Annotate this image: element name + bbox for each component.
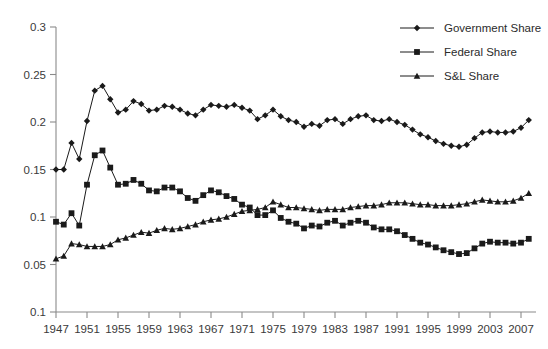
data-point-diamond-icon [301,124,307,130]
data-point-square-icon [115,182,121,188]
data-point-diamond-icon [402,122,408,128]
data-point-square-icon [402,232,408,238]
x-tick-label: 1955 [105,323,131,335]
data-point-diamond-icon [371,117,377,123]
x-tick-label: 1999 [446,323,472,335]
data-point-square-icon [123,181,129,187]
data-point-diamond-icon [92,87,98,93]
legend-label: Government Share [444,22,541,34]
data-point-square-icon [348,220,354,226]
data-point-diamond-icon [363,112,369,118]
legend-label: Federal Share [444,46,517,58]
data-point-square-icon [216,189,222,195]
data-point-diamond-icon [425,134,431,140]
data-point-square-icon [495,240,501,246]
x-tick-label: 1983 [322,323,348,335]
data-point-square-icon [53,219,59,225]
data-point-diamond-icon [216,103,222,109]
data-point-square-icon [239,202,245,208]
line-chart: 0.30.250.20.150.10.050.1 194719511955195… [0,0,548,349]
data-point-triangle-icon [192,221,199,227]
data-point-square-icon [371,225,377,231]
data-point-diamond-icon [231,102,237,108]
x-axis: 1947195119551959196319671971197519791983… [43,312,536,335]
x-tick-label: 1963 [167,323,193,335]
data-point-diamond-icon [386,116,392,122]
data-point-triangle-icon [53,256,60,262]
x-tick-label: 2007 [508,323,534,335]
data-point-triangle-icon [68,240,75,246]
data-point-square-icon [340,223,346,229]
series-line [56,86,529,170]
data-point-square-icon [332,218,338,224]
data-point-diamond-icon [99,83,105,89]
x-tick-label: 1987 [353,323,379,335]
data-point-diamond-icon [107,96,113,102]
data-point-square-icon [231,196,237,202]
data-point-square-icon [386,226,392,232]
x-tick-label: 1951 [74,323,100,335]
data-point-square-icon [286,219,292,225]
data-point-square-icon [518,240,524,246]
data-point-square-icon [441,247,447,253]
y-tick-label: 0.15 [24,164,46,176]
data-point-triangle-icon [138,229,145,235]
data-point-square-icon [262,212,268,218]
data-point-square-icon [456,251,462,257]
legend-item-government-share[interactable]: Government Share [400,22,541,34]
x-axis-ticks: 1947195119551959196319671971197519791983… [43,312,534,335]
data-point-square-icon [510,241,516,247]
y-tick-label: 0.05 [24,259,46,271]
data-point-square-icon [185,195,191,201]
data-point-triangle-icon [510,198,517,204]
data-point-square-icon [154,188,160,194]
data-point-square-icon [200,192,206,198]
x-tick-label: 2003 [477,323,503,335]
series-s-l-share [53,190,532,262]
data-point-square-icon [293,221,299,227]
data-point-diamond-icon [208,102,214,108]
data-point-diamond-icon [510,128,516,134]
data-point-triangle-icon [479,197,486,203]
data-point-triangle-icon [60,253,67,259]
data-point-diamond-icon [332,116,338,122]
data-point-diamond-icon [223,104,229,110]
data-point-square-icon [255,212,261,218]
legend-item-s-l-share[interactable]: S&L Share [400,70,499,82]
data-point-square-icon [162,185,168,191]
data-point-triangle-icon [270,199,277,205]
data-point-triangle-icon [223,214,230,220]
data-point-diamond-icon [502,129,508,135]
data-point-diamond-icon [355,113,361,119]
legend-item-federal-share[interactable]: Federal Share [400,46,517,58]
data-point-diamond-icon [448,143,454,149]
x-tick-label: 1971 [229,323,255,335]
data-point-square-icon [464,250,470,256]
data-point-square-icon [317,224,323,230]
data-point-square-icon [208,188,214,194]
data-point-diamond-icon [347,116,353,122]
data-point-diamond-icon [340,121,346,127]
data-point-diamond-icon [68,140,74,146]
data-point-triangle-icon [122,235,129,241]
x-tick-label: 1967 [198,323,224,335]
y-tick-label: 0.3 [30,21,46,33]
data-point-triangle-icon [231,211,238,217]
data-point-diamond-icon [169,104,175,110]
data-point-triangle-icon [161,225,168,231]
legend-marker-diamond-icon [414,25,420,31]
data-point-square-icon [417,240,423,246]
data-point-square-icon [301,226,307,232]
data-point-diamond-icon [84,118,90,124]
data-point-diamond-icon [309,121,315,127]
data-point-diamond-icon [394,119,400,125]
data-point-square-icon [177,188,183,194]
y-axis: 0.30.250.20.150.10.050.1 [24,21,56,318]
y-tick-label: 0.1 [30,306,46,318]
data-point-square-icon [503,240,509,246]
data-point-diamond-icon [440,141,446,147]
data-point-square-icon [448,249,454,255]
data-point-diamond-icon [239,105,245,111]
data-point-square-icon [131,177,137,183]
data-point-diamond-icon [53,166,59,172]
